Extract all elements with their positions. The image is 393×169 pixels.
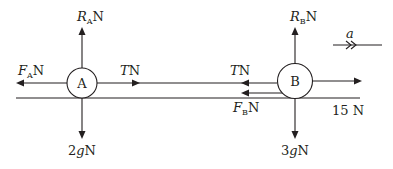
acceleration-label: a xyxy=(346,26,354,41)
arrowhead-icon xyxy=(241,90,249,97)
reaction-b-label: RBN xyxy=(289,9,317,26)
weight-b-label: 3gN xyxy=(281,143,309,158)
arrowhead-icon xyxy=(79,131,86,139)
friction-b-label: FBN xyxy=(232,100,259,117)
tension-a-arrowhead-icon xyxy=(132,80,140,87)
acceleration-indicator: a xyxy=(333,26,382,49)
force-diagram: A RAN FAN 2gN TN TN FBN B RBN 1 xyxy=(0,0,393,169)
arrowhead-icon xyxy=(292,131,299,139)
arrowhead-icon xyxy=(292,27,299,35)
particle-b-label: B xyxy=(290,74,300,89)
arrowhead-icon xyxy=(16,80,24,87)
applied-force-label: 15 N xyxy=(332,103,364,118)
tension-b-label: TN xyxy=(230,63,250,78)
reaction-a-label: RAN xyxy=(76,9,104,26)
friction-a-label: FAN xyxy=(17,63,44,80)
arrowhead-icon xyxy=(79,27,86,35)
tension-a-label: TN xyxy=(120,63,140,78)
particle-a: A RAN FAN 2gN xyxy=(16,9,104,158)
weight-a-label: 2gN xyxy=(68,143,96,158)
arrowhead-icon xyxy=(354,78,362,85)
tension-b-arrowhead-icon xyxy=(241,80,249,87)
particle-a-label: A xyxy=(76,76,87,91)
